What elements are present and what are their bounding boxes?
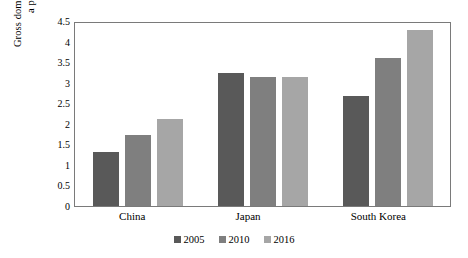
legend-item[interactable]: 2005 (174, 234, 205, 245)
bar (93, 152, 119, 206)
x-axis-label: Japan (235, 209, 260, 223)
y-axis-tick-label: 4 (65, 38, 70, 48)
plot-area (74, 22, 451, 207)
bar-group (218, 23, 308, 206)
x-axis-label: South Korea (351, 209, 406, 223)
y-axis-tick-label: 3.5 (58, 58, 71, 68)
y-axis-title-line-2: a percentage of GDP (%) (24, 0, 37, 13)
y-axis-tick-label: 0 (65, 202, 70, 212)
y-axis-tick-label: 3 (65, 79, 70, 89)
y-axis-tick-label: 4.5 (58, 17, 71, 27)
y-axis-tick-label: 2.5 (58, 99, 71, 109)
legend-swatch-icon (219, 236, 226, 243)
legend-swatch-icon (174, 236, 181, 243)
bar (375, 58, 401, 206)
y-axis-tick-label: 1 (65, 161, 70, 171)
legend-item[interactable]: 2010 (219, 234, 250, 245)
y-axis-title-line-1: Gross domestic expenditure on R & D as (11, 0, 24, 47)
bar-chart: a percentage of GDP (%) Gross domestic e… (0, 0, 468, 258)
x-axis-labels: ChinaJapanSouth Korea (74, 209, 451, 229)
bar (218, 73, 244, 206)
x-axis-label: China (119, 209, 145, 223)
bar (125, 135, 151, 206)
chart-legend: 200520102016 (0, 234, 468, 245)
bar (282, 77, 308, 207)
bar (343, 96, 369, 206)
y-axis-ticks: 4.543.532.521.510.50 (40, 22, 70, 207)
bar (157, 119, 183, 206)
legend-swatch-icon (264, 236, 271, 243)
y-axis-title: a percentage of GDP (%) Gross domestic e… (6, 0, 42, 54)
y-axis-tick-label: 2 (65, 120, 70, 130)
y-axis-tick-label: 0.5 (58, 181, 71, 191)
y-axis-tick-label: 1.5 (58, 140, 71, 150)
bar-group (343, 23, 433, 206)
bar-group (93, 23, 183, 206)
legend-label: 2010 (229, 234, 250, 245)
bar-groups (75, 23, 450, 206)
bar (250, 77, 276, 206)
legend-label: 2016 (274, 234, 295, 245)
legend-label: 2005 (184, 234, 205, 245)
bar (407, 30, 433, 206)
legend-item[interactable]: 2016 (264, 234, 295, 245)
